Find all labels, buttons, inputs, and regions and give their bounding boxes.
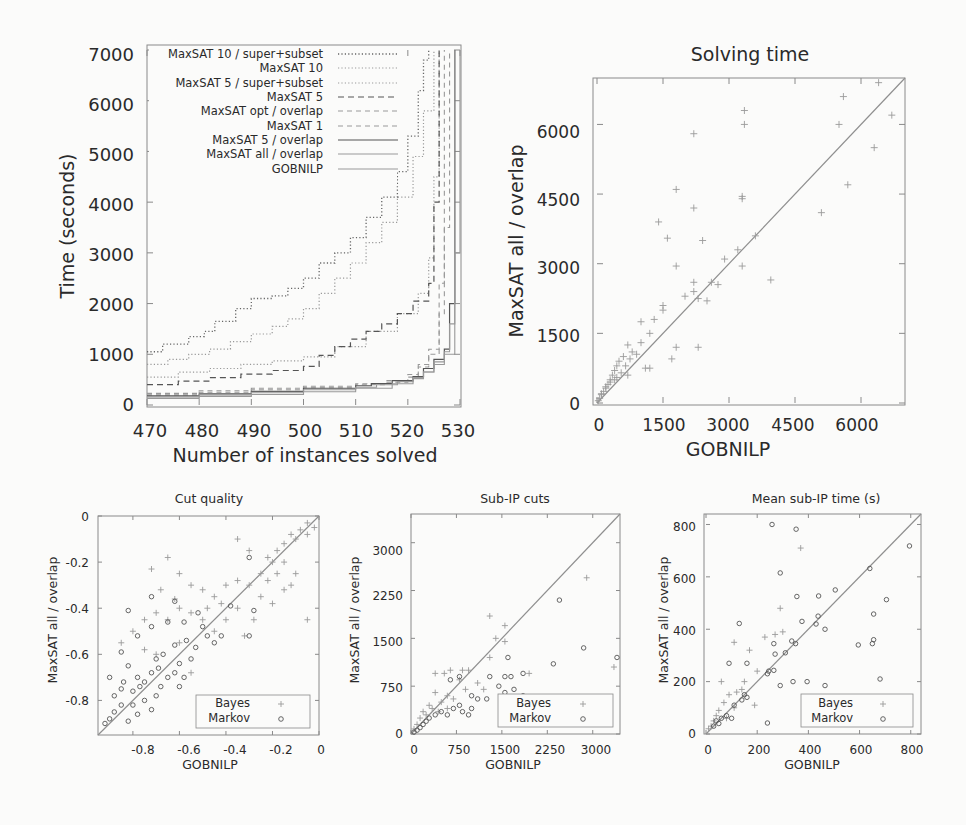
y-tick: 1500 [372, 635, 403, 649]
legend-label: MaxSAT 10 / super+subset [168, 47, 323, 61]
legend-label: MaxSAT 5 / overlap [212, 133, 323, 147]
y-tick: 400 [673, 624, 696, 638]
x-tick: 490 [237, 420, 271, 441]
y-tick: 750 [380, 681, 403, 695]
x-tick: 0 [317, 743, 325, 757]
x-axis-label: GOBNILP [784, 757, 840, 772]
x-tick: 480 [185, 420, 219, 441]
x-tick: -0.2 [269, 743, 292, 757]
legend-label-markov: Markov [811, 711, 853, 725]
legend: MaxSAT 10 / super+subset MaxSAT 10 MaxSA… [149, 46, 398, 184]
y-tick: 0 [123, 394, 134, 415]
x-tick: 510 [339, 420, 373, 441]
legend: Bayes Markov [498, 694, 613, 727]
x-axis-label: GOBNILP [182, 757, 238, 772]
x-tick: 200 [748, 743, 771, 757]
x-tick: -0.6 [177, 743, 200, 757]
y-tick: -0.4 [66, 602, 89, 616]
legend: Bayes Markov [196, 695, 310, 728]
x-axis-label: Number of instances solved [173, 444, 438, 466]
y-tick: 1000 [88, 344, 134, 365]
y-tick: 4000 [88, 194, 134, 215]
cut-quality-chart: Cut quality -0.8 -0.6 -0.4 -0.2 0 -0.8 -… [45, 491, 325, 772]
y-tick-labels: 0 1000 2000 3000 4000 5000 6000 7000 [88, 44, 134, 415]
y-axis-label: MaxSAT all / overlap [45, 556, 60, 683]
y-tick: 1500 [537, 326, 580, 346]
legend-label: MaxSAT all / overlap [206, 147, 323, 161]
y-tick: 6000 [88, 94, 134, 115]
x-tick: 0 [410, 743, 418, 757]
y-axis-label: MaxSAT all / overlap [347, 556, 362, 683]
x-tick: 500 [288, 420, 322, 441]
y-tick-labels: -0.8 -0.6 -0.4 -0.2 0 [66, 510, 89, 708]
y-tick: -0.8 [66, 694, 89, 708]
y-axis-label: MaxSAT all / overlap [505, 145, 527, 338]
y-tick: 800 [673, 520, 696, 534]
y-tick: 0 [688, 727, 696, 741]
x-tick: 1500 [490, 743, 521, 757]
legend-label: MaxSAT opt / overlap [201, 104, 323, 118]
x-tick: 6000 [835, 415, 878, 435]
y-tick: 3000 [88, 244, 134, 265]
legend-label: MaxSAT 10 [259, 61, 323, 75]
x-tick: 470 [133, 420, 167, 441]
chart-title: Sub-IP cuts [480, 491, 550, 506]
x-tick: 530 [441, 420, 475, 441]
x-tick-labels: 0 1500 3000 4500 6000 [594, 415, 879, 435]
x-tick: 520 [390, 420, 424, 441]
legend-label-bayes: Bayes [215, 696, 250, 710]
x-tick-labels: -0.8 -0.6 -0.4 -0.2 0 [131, 743, 325, 757]
x-axis-label: GOBNILP [686, 438, 771, 460]
y-tick-labels: 0 200 400 600 800 [673, 520, 696, 741]
y-tick-labels: 0 1500 3000 4500 6000 [537, 122, 580, 414]
y-tick: 3000 [537, 258, 580, 278]
cumulative-chart: 0 1000 2000 3000 4000 5000 6000 7000 470… [56, 44, 475, 466]
legend-label: MaxSAT 5 [267, 90, 323, 104]
x-tick-labels: 470 480 490 500 510 520 530 [133, 420, 475, 441]
y-tick: 2250 [372, 589, 403, 603]
y-tick: -0.6 [66, 648, 89, 662]
y-tick: 600 [673, 572, 696, 586]
legend-label-markov: Markov [509, 711, 551, 725]
x-tick-labels: 0 750 1500 2250 3000 [410, 743, 611, 757]
x-tick: 2250 [535, 743, 566, 757]
y-tick: 200 [673, 675, 696, 689]
legend-label: MaxSAT 1 [267, 119, 323, 133]
legend-label-bayes: Bayes [516, 696, 551, 710]
x-tick: 1500 [642, 415, 685, 435]
legend: Bayes Markov [801, 694, 913, 727]
x-tick: 0 [594, 415, 605, 435]
y-tick: 2000 [88, 294, 134, 315]
x-tick-labels: 0 200 400 600 800 [704, 743, 923, 757]
legend-label: GOBNILP [272, 162, 323, 176]
y-tick: -0.2 [66, 556, 89, 570]
y-axis-label: MaxSAT all / overlap [656, 556, 671, 683]
x-tick: 0 [704, 743, 712, 757]
x-axis-label: GOBNILP [485, 757, 541, 772]
y-tick: 6000 [537, 122, 580, 142]
x-tick: -0.4 [223, 743, 246, 757]
legend-label: MaxSAT 5 / super+subset [175, 76, 323, 90]
scatter-points [595, 78, 905, 404]
x-tick: 750 [448, 743, 471, 757]
y-tick: 7000 [88, 44, 134, 65]
y-tick: 5000 [88, 144, 134, 165]
y-tick-labels: 0 750 1500 2250 3000 [372, 544, 403, 741]
x-tick: 800 [901, 743, 924, 757]
x-tick: 3000 [706, 415, 749, 435]
chart-title: Mean sub-IP time (s) [752, 491, 881, 506]
mean-sub-ip-time-chart: Mean sub-IP time (s) 0 200 400 600 800 0… [656, 491, 923, 772]
solving-time-chart: Solving time 0 1500 3000 4500 6000 0 150… [505, 43, 905, 460]
sub-ip-cuts-chart: Sub-IP cuts 0 750 1500 2250 3000 0 750 1… [347, 491, 620, 772]
x-tick: -0.8 [131, 743, 154, 757]
x-tick: 4500 [771, 415, 814, 435]
figure: 0 1000 2000 3000 4000 5000 6000 7000 470… [0, 0, 966, 825]
x-tick: 600 [850, 743, 873, 757]
y-tick: 0 [395, 727, 403, 741]
y-axis-label: Time (seconds) [56, 153, 78, 299]
y-tick: 0 [569, 394, 580, 414]
y-tick: 4500 [537, 190, 580, 210]
chart-title: Solving time [691, 43, 810, 65]
chart-title: Cut quality [175, 491, 244, 506]
x-tick: 400 [799, 743, 822, 757]
